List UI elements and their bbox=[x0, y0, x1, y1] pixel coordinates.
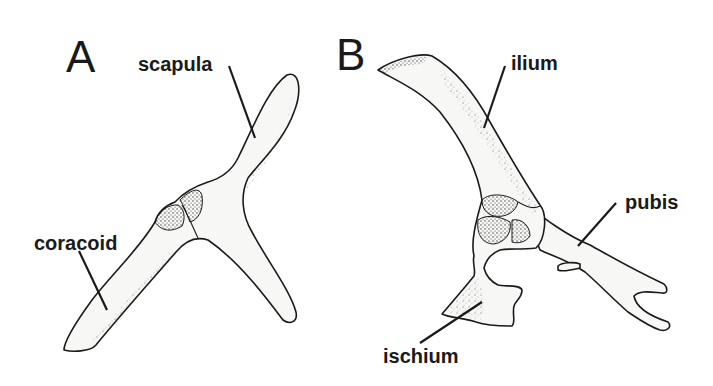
panel-b: B ilium pubis ischium bbox=[336, 30, 678, 367]
label-scapula: scapula bbox=[138, 53, 213, 75]
panel-letter-a: A bbox=[66, 32, 96, 81]
panel-letter-b: B bbox=[336, 30, 365, 79]
label-pubis: pubis bbox=[625, 191, 678, 213]
pubis-spur bbox=[558, 263, 580, 271]
leader-scapula bbox=[229, 66, 255, 138]
anatomy-figure: A scapula coracoid B bbox=[0, 0, 713, 386]
leader-pubis bbox=[578, 203, 616, 246]
label-ilium: ilium bbox=[511, 52, 558, 74]
panel-a: A scapula coracoid bbox=[34, 32, 299, 351]
glenoid-cavity bbox=[155, 205, 184, 230]
pectoral-girdle-bone bbox=[64, 74, 299, 351]
label-ischium: ischium bbox=[383, 345, 459, 367]
leader-ilium bbox=[484, 66, 505, 128]
label-coracoid: coracoid bbox=[34, 232, 117, 254]
